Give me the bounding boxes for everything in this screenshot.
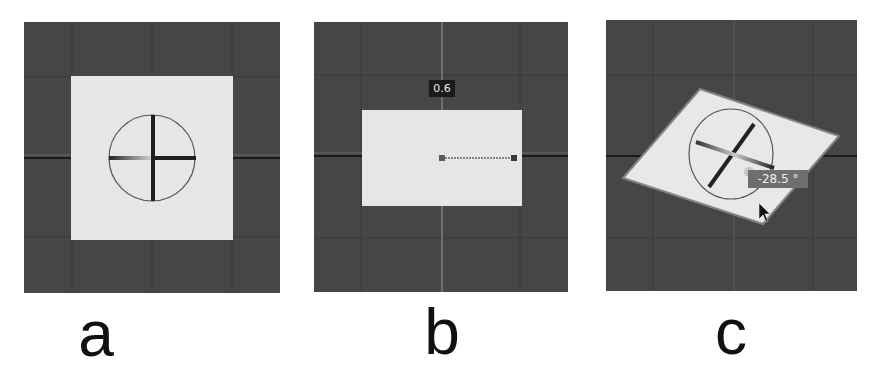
- vertical-handle[interactable]: [151, 115, 155, 201]
- left-handle[interactable]: [109, 156, 151, 160]
- angle-tooltip-value: -28.5 °: [748, 170, 808, 188]
- panel-label-c: c: [691, 300, 771, 364]
- panel-c-scene: [606, 20, 857, 291]
- figure-caption-cutoff: [20, 372, 860, 381]
- panel-a-scene: [24, 22, 280, 293]
- right-handle[interactable]: [155, 156, 196, 160]
- panel-c-viewport: -28.5 °: [606, 20, 857, 291]
- scale-origin-point: [439, 155, 445, 161]
- panel-b-scene: [314, 22, 568, 292]
- panel-label-a: a: [56, 302, 136, 366]
- panel-label-b: b: [402, 300, 482, 364]
- scale-tooltip-value: 0.6: [429, 80, 455, 97]
- scale-handle-point[interactable]: [511, 155, 517, 161]
- panel-a-viewport: [24, 22, 280, 293]
- panel-b-viewport: 0.6: [314, 22, 568, 292]
